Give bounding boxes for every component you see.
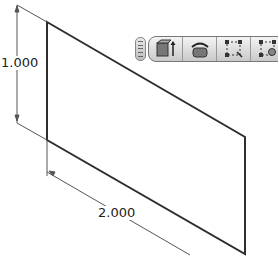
revolve-button[interactable] (182, 37, 216, 61)
rectangle-sketch-button[interactable] (216, 37, 250, 61)
point-sketch-button[interactable] (250, 37, 278, 61)
dimension-diagonal[interactable] (47, 140, 190, 255)
toolbar-button-group (148, 36, 278, 62)
dimension-label-diagonal[interactable]: 2.000 (97, 206, 136, 220)
sketch-point-icon (257, 39, 279, 59)
toolbar-grip-handle[interactable] (135, 37, 146, 61)
sketch-rectangle-icon (223, 39, 245, 59)
extrude-button[interactable] (149, 37, 182, 61)
revolve-icon (189, 39, 211, 59)
extrude-icon (155, 39, 177, 59)
dimension-vertical[interactable] (15, 5, 47, 140)
mini-toolbar (135, 36, 278, 62)
dimension-label-vertical[interactable]: 1.000 (0, 56, 39, 70)
